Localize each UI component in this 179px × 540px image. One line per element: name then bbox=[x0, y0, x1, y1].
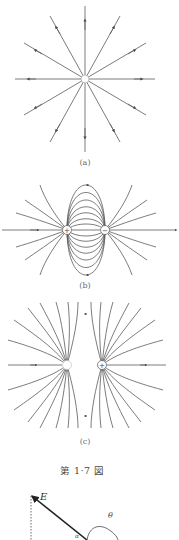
svg-text:+: + bbox=[99, 362, 105, 370]
dipole-field-lines bbox=[2, 185, 176, 275]
like-charge-field-lines bbox=[8, 302, 166, 428]
angle-theta-label: θ bbox=[108, 511, 113, 520]
figure-caption: 第 1·7 図 bbox=[60, 463, 105, 477]
vector-diagram bbox=[0, 490, 179, 540]
negative-charge: − bbox=[101, 226, 110, 236]
angle-theta-arc bbox=[87, 527, 118, 540]
figure-c-label: (c) bbox=[70, 437, 100, 446]
figure-b-dipole-field: + − bbox=[0, 175, 179, 283]
figure-a-label: (a) bbox=[70, 158, 100, 167]
figure-a-radial-field bbox=[0, 0, 179, 155]
positive-charge: + bbox=[63, 226, 72, 236]
right-charge: + bbox=[98, 361, 107, 371]
angle-alpha-label: α bbox=[75, 532, 79, 539]
figure-page: (a) bbox=[0, 0, 179, 540]
svg-text:+: + bbox=[64, 227, 70, 235]
vector-e-label: E bbox=[40, 491, 47, 502]
figure-c-like-charges-field: + bbox=[0, 300, 179, 433]
point-charge bbox=[81, 75, 89, 83]
svg-text:−: − bbox=[102, 227, 108, 235]
figure-b-label: (b) bbox=[70, 281, 100, 290]
left-charge bbox=[63, 361, 72, 370]
